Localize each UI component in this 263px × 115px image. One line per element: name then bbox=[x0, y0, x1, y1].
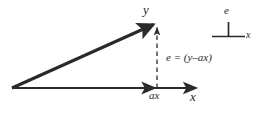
label-axis-x: x bbox=[190, 90, 196, 103]
figure-canvas: y ax x e = (y–ax) e x bbox=[0, 0, 263, 115]
vector-diagram-svg bbox=[0, 0, 263, 115]
vector-y-arrow bbox=[12, 25, 154, 89]
label-inset-x: x bbox=[246, 30, 250, 40]
label-vector-y: y bbox=[143, 3, 149, 16]
label-projection-ax: ax bbox=[149, 90, 159, 101]
label-inset-e: e bbox=[224, 5, 229, 16]
label-residual-equation: e = (y–ax) bbox=[166, 52, 212, 63]
